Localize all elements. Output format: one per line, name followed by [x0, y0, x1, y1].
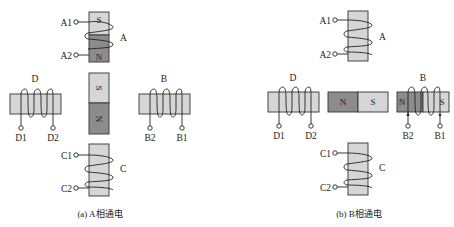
coil-a: S N A1 A2 A [60, 12, 127, 62]
coil-d: D D1 D2 [10, 74, 61, 143]
terminal-b1: B1 [176, 133, 187, 143]
rotor-pole-left: N [340, 97, 347, 107]
coil-a: A1 A2 A [319, 11, 386, 61]
coil-a-pole-top: S [96, 15, 101, 25]
rotor: N S [328, 92, 388, 112]
terminal-a1: A1 [60, 18, 72, 28]
terminal-d2: D2 [47, 133, 59, 143]
coil-c-label: C [120, 164, 126, 174]
coil-a-label: A [379, 32, 386, 42]
coil-a-label: A [120, 33, 127, 43]
coil-b-pole-left: N [399, 97, 406, 107]
terminal-d1: D1 [273, 131, 285, 141]
terminal-b1: B1 [434, 131, 445, 141]
coil-b-label: B [161, 74, 167, 84]
rotor-pole-top: S [94, 85, 104, 90]
terminal-c2: C1 [61, 151, 72, 161]
terminal-d1: D1 [15, 133, 27, 143]
coil-c: C1 C2 C [61, 144, 126, 196]
coil-b: B B2 B1 [139, 74, 190, 143]
terminal-c1: C2 [61, 184, 72, 194]
coil-c-label: C [379, 163, 385, 173]
terminal-c2: C1 [320, 149, 331, 159]
rotor: S N [89, 73, 109, 134]
coil-a-pole-bottom: N [96, 52, 103, 62]
terminal-b2: B2 [402, 131, 413, 141]
coil-d-label: D [32, 74, 39, 84]
coil-b: B N S B2 B1 [397, 73, 449, 141]
terminal-a2: A2 [60, 51, 72, 61]
terminal-d2: D2 [305, 131, 317, 141]
coil-b-label: B [420, 73, 426, 83]
terminal-a2: A2 [319, 50, 331, 60]
caption-b: (b) B相通电 [336, 208, 382, 219]
caption-a: (a) A相通电 [77, 208, 122, 219]
stepper-motor-diagram: S N A1 A2 A S N D D1 D2 [0, 0, 454, 227]
rotor-pole-bottom: N [94, 116, 104, 123]
coil-d-label: D [290, 73, 297, 83]
terminal-b2: B2 [144, 133, 155, 143]
coil-c: C1 C2 C [320, 143, 385, 195]
terminal-a1: A1 [319, 16, 331, 26]
panel-a: S N A1 A2 A S N D D1 D2 [10, 12, 190, 219]
coil-d: D D1 D2 [268, 73, 319, 141]
panel-b: A1 A2 A D D1 D2 N S B N S [268, 11, 449, 219]
rotor-pole-right: S [370, 97, 375, 107]
terminal-c1: C2 [320, 183, 331, 193]
